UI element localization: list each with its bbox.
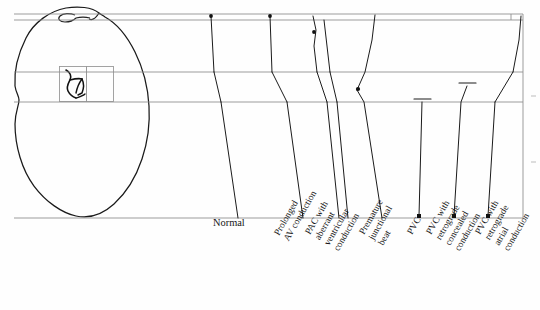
trace-normal-ventricular (221, 102, 238, 218)
trace-sinus-extra-ventricular (337, 102, 348, 218)
trace-pvc-concealed-ventricular (454, 86, 467, 216)
trace-sinus-extra-av-node (330, 72, 337, 102)
origin-dot-junctional (356, 87, 360, 91)
trace-pvc-retro-atrial (513, 16, 521, 72)
ladder-grid-and-traces (0, 0, 540, 310)
trace-normal-av (214, 72, 221, 102)
label-normal[interactable]: Normal (213, 217, 245, 229)
trace-prolonged-av-node (272, 72, 287, 102)
trace-pac-atrial (313, 16, 317, 72)
ladder-diagram-figure: Normal Prolonged AV conduction PAC with … (0, 0, 540, 310)
trace-sinus-extra-atrial (324, 20, 330, 72)
trace-pvc-ventricular (419, 102, 422, 216)
origin-dot-normal (209, 14, 213, 18)
origin-dot-pac (312, 30, 316, 34)
trace-junctional-retro-atrial (357, 15, 375, 90)
trace-prolonged-av-atrial (270, 16, 272, 72)
trace-pvc-retro-av-node (495, 72, 513, 102)
trace-normal-atrial (211, 16, 214, 72)
label-normal-text: Normal (213, 217, 245, 228)
origin-dot-prolonged-av (268, 14, 272, 18)
trace-pac-av-node (317, 72, 327, 102)
